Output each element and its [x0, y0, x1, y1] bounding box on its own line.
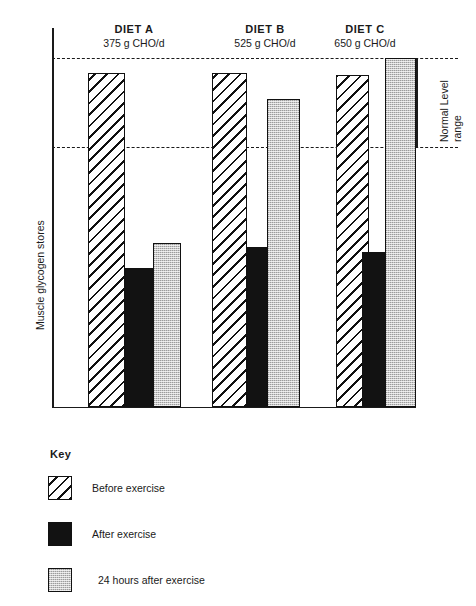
- bar-diet-b-24h-after-exercise: [267, 99, 300, 407]
- y-axis-title: Muscle glycogen stores: [34, 220, 46, 330]
- group-subtitle: 650 g CHO/d: [305, 36, 425, 50]
- normal-range-label-line2: range: [451, 115, 464, 142]
- bar-diet-a-24h-after-exercise: [153, 243, 181, 407]
- legend-label: 24 hours after exercise: [98, 574, 205, 586]
- legend-swatch-hatch-icon: [48, 476, 72, 500]
- y-axis-line: [52, 28, 54, 408]
- group-title: DIET C: [305, 22, 425, 36]
- bar-diet-b-before-exercise: [212, 73, 247, 407]
- normal-range-bracket: [416, 58, 418, 148]
- legend-item-24h-after-exercise: 24 hours after exercise: [48, 568, 388, 592]
- legend-swatch-stipple-icon: [48, 568, 72, 592]
- bar-diet-a-after-exercise: [125, 268, 153, 407]
- group-header-diet-c: DIET C 650 g CHO/d: [305, 22, 425, 50]
- legend-item-before-exercise: Before exercise: [48, 476, 388, 500]
- legend: Key Before exercise After exercise 24 ho…: [48, 448, 388, 606]
- bar-diet-a-before-exercise: [88, 73, 125, 407]
- normal-range-label-line1: Normal Level: [438, 80, 451, 142]
- bar-diet-c-24h-after-exercise: [385, 58, 416, 407]
- legend-label: After exercise: [92, 528, 156, 540]
- glycogen-bar-chart: DIET A 375 g CHO/d DIET B 525 g CHO/d DI…: [0, 0, 476, 606]
- legend-item-after-exercise: After exercise: [48, 522, 388, 546]
- group-title: DIET A: [74, 22, 194, 36]
- legend-swatch-solid-icon: [48, 522, 72, 546]
- group-header-diet-a: DIET A 375 g CHO/d: [74, 22, 194, 50]
- group-subtitle: 375 g CHO/d: [74, 36, 194, 50]
- legend-label: Before exercise: [92, 482, 165, 494]
- legend-title: Key: [50, 448, 388, 460]
